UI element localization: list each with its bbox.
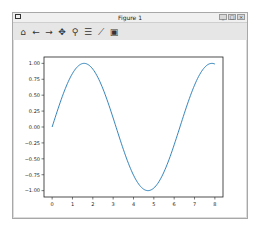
y-tick-label: 0.00 [29,124,40,130]
x-tick-label: 0 [51,201,54,207]
line-series [52,63,215,190]
y-tick-label: 0.50 [29,92,40,98]
x-tick-label: 1 [71,201,74,207]
y-tick-label: −0.25 [25,140,40,146]
x-tick-label: 7 [193,201,196,207]
y-tick-label: 0.25 [29,108,40,114]
y-tick-label: −0.75 [25,172,40,178]
plot-area[interactable]: 0123456781.000.750.500.250.00−0.25−0.50−… [0,0,257,227]
x-tick-label: 4 [132,201,135,207]
y-tick-label: −1.00 [25,187,40,193]
x-tick-label: 6 [173,201,176,207]
x-tick-label: 8 [213,201,216,207]
x-tick-label: 2 [91,201,94,207]
x-tick-label: 5 [152,201,155,207]
y-tick-label: 0.75 [29,76,40,82]
x-tick-label: 3 [112,201,115,207]
y-tick-label: 1.00 [29,60,40,66]
y-tick-label: −0.50 [25,156,40,162]
